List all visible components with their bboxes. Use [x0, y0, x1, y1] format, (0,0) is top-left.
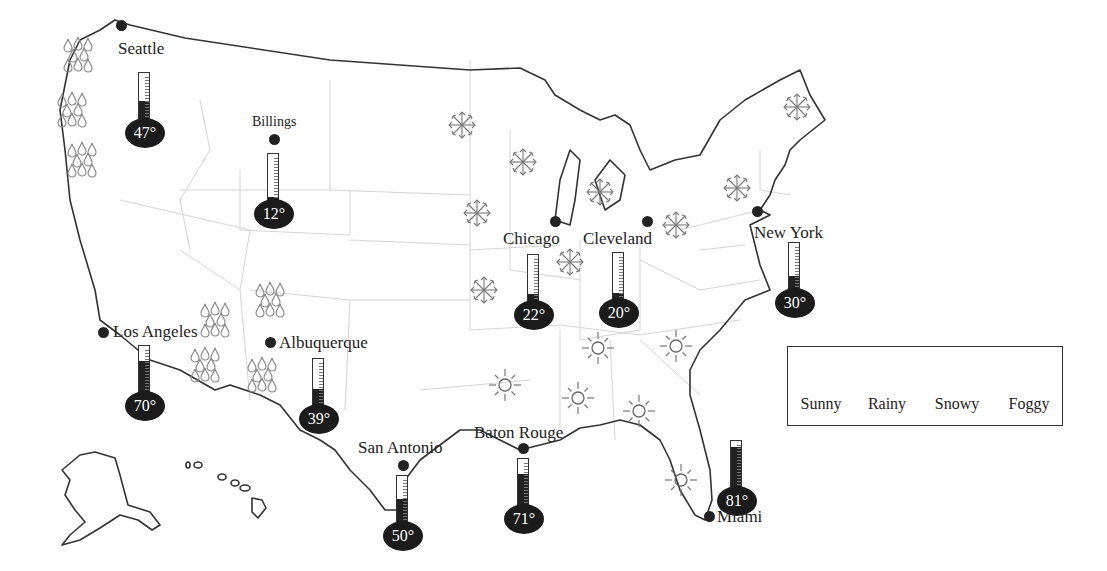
thermometer-icon: 70°	[125, 345, 165, 421]
city-dot	[98, 327, 109, 338]
thermometer-icon: 12°	[254, 153, 294, 229]
city-label: Baton Rouge	[474, 424, 563, 441]
thermometer-icon: 39°	[299, 358, 339, 434]
thermometer-icon: 50°	[383, 475, 423, 551]
thermometer-icon: 81°	[717, 440, 757, 516]
alaska-outline	[62, 452, 160, 545]
hawaii-outline	[186, 462, 266, 518]
city-label: Seattle	[118, 40, 164, 57]
city-dot	[550, 216, 561, 227]
great-lakes	[555, 150, 625, 225]
temperature: 39°	[299, 404, 339, 434]
temperature: 12°	[254, 199, 294, 229]
legend-label: Sunny	[788, 395, 854, 413]
thermometer-icon: 20°	[599, 252, 639, 328]
thermometer-icon: 22°	[514, 254, 554, 330]
temperature: 30°	[775, 288, 815, 318]
city-label: Miami	[717, 508, 762, 525]
thermometer-icon: 47°	[125, 72, 165, 148]
legend-label: Foggy	[996, 395, 1062, 413]
temperature: 22°	[514, 300, 554, 330]
city-dot	[752, 206, 763, 217]
temperature: 50°	[383, 521, 423, 551]
legend: Sunny Rainy Snowy Foggy	[787, 346, 1063, 426]
city-dot	[398, 460, 409, 471]
temperature: 71°	[504, 504, 544, 534]
city-label: Los Angeles	[113, 323, 198, 340]
city-label: Chicago	[503, 230, 560, 247]
city-dot	[518, 443, 529, 454]
temperature: 20°	[599, 298, 639, 328]
city-label: San Antonio	[358, 439, 443, 456]
legend-label: Rainy	[854, 395, 920, 413]
thermometer-icon: 71°	[504, 458, 544, 534]
city-label: Billings	[252, 115, 296, 129]
city-dot	[704, 511, 715, 522]
city-label: Cleveland	[583, 230, 652, 247]
legend-label: Snowy	[924, 395, 990, 413]
temperature: 70°	[125, 391, 165, 421]
city-dot	[642, 216, 653, 227]
city-dot	[116, 20, 127, 31]
temperature: 47°	[125, 118, 165, 148]
city-dot	[269, 134, 280, 145]
city-label: Albuquerque	[279, 334, 368, 351]
city-label: New York	[754, 224, 823, 241]
city-dot	[265, 337, 276, 348]
thermometer-icon: 30°	[775, 242, 815, 318]
